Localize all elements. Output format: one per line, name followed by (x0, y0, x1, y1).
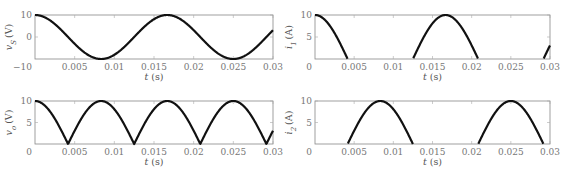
y-axis-label: i2(A) (283, 111, 298, 135)
y-tick-label: 0 (26, 32, 32, 42)
y-axis-label: vo(V) (3, 110, 18, 136)
x-tick-label: 0.025 (220, 62, 246, 72)
y-tick-label: 10 (21, 10, 33, 20)
x-tick-label: 0.025 (220, 147, 246, 157)
x-tick-label: 0.025 (498, 147, 524, 157)
series-i2 (348, 101, 543, 144)
origin-tick-label: −10 (13, 62, 32, 72)
origin-tick-label: 0 (26, 147, 32, 157)
x-tick-label: 0.005 (62, 62, 88, 72)
y-tick-label: 5 (306, 32, 312, 42)
panel-i1: 0.0050.010.0150.020.0250.030105t (s)i1(A… (283, 10, 560, 82)
x-tick-label: 0.005 (62, 147, 88, 157)
x-tick-label: 0.03 (540, 62, 560, 72)
x-tick-label: 0.03 (540, 147, 560, 157)
y-tick-label: 10 (301, 96, 313, 106)
x-tick-label: 0.02 (184, 62, 204, 72)
x-tick-label: 0.005 (341, 62, 367, 72)
panel-vo: 0.0050.010.0150.020.0250.030105t (s)vo(V… (3, 96, 283, 167)
axes-frame (35, 15, 273, 59)
x-axis-label: t (s) (144, 156, 163, 167)
series-vo (35, 101, 273, 144)
origin-tick-label: 0 (306, 147, 312, 157)
x-tick-label: 0.025 (498, 62, 524, 72)
y-tick-label: 10 (21, 96, 33, 106)
x-tick-label: 0.03 (263, 62, 283, 72)
x-axis-label: t (s) (144, 71, 163, 82)
y-axis-label: i1(A) (283, 25, 298, 49)
x-tick-label: 0.02 (184, 147, 204, 157)
figure: 0.0050.010.0150.020.0250.03−10100t (s)vS… (0, 0, 569, 169)
x-tick-label: 0.01 (383, 62, 403, 72)
x-tick-label: 0.03 (263, 147, 283, 157)
x-tick-label: 0.02 (462, 147, 482, 157)
y-tick-label: 5 (306, 118, 312, 128)
x-tick-label: 0.005 (341, 147, 367, 157)
panel-vs: 0.0050.010.0150.020.0250.03−10100t (s)vS… (3, 10, 283, 82)
y-tick-label: 10 (301, 10, 313, 20)
origin-tick-label: 0 (306, 62, 312, 72)
series-i1 (315, 15, 550, 59)
x-tick-label: 0.01 (104, 147, 124, 157)
x-tick-label: 0.02 (462, 62, 482, 72)
axes-frame (315, 15, 550, 59)
series-vs (35, 15, 273, 59)
y-axis-label: vS(V) (3, 24, 18, 50)
x-axis-label: t (s) (423, 156, 442, 167)
y-tick-label: 5 (26, 118, 32, 128)
panel-i2: 0.0050.010.0150.020.0250.030105t (s)i2(A… (283, 96, 560, 167)
x-tick-label: 0.01 (104, 62, 124, 72)
x-axis-label: t (s) (423, 71, 442, 82)
x-tick-label: 0.01 (383, 147, 403, 157)
